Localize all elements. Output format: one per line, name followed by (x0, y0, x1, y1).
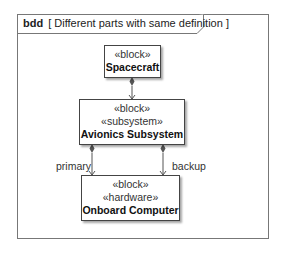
composite-diamond-icon (161, 144, 166, 153)
stereotype-block: «block» (82, 178, 179, 191)
block-spacecraft[interactable]: «block» Spacecraft (104, 45, 161, 78)
composite-diamond-icon (90, 144, 95, 153)
role-label-backup: backup (172, 160, 206, 172)
stereotype-block: «block» (105, 48, 160, 61)
block-onboard-computer[interactable]: «block» «hardware» Onboard Computer (81, 175, 180, 221)
composite-diamond-icon (130, 77, 135, 86)
stereotype-block: «block» (80, 102, 184, 115)
composition-spacecraft-avionics[interactable] (129, 77, 135, 99)
composition-backup[interactable] (160, 144, 166, 175)
block-name: Avionics Subsystem (80, 128, 184, 141)
stereotype-hardware: «hardware» (82, 191, 179, 204)
role-label-primary: primary (56, 160, 91, 172)
block-avionics-subsystem[interactable]: «block» «subsystem» Avionics Subsystem (79, 99, 185, 145)
stereotype-subsystem: «subsystem» (80, 115, 184, 128)
block-name: Spacecraft (105, 61, 160, 74)
block-name: Onboard Computer (82, 204, 179, 217)
